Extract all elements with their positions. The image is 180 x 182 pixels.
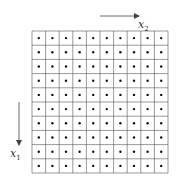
grid-point-dot-icon: [160, 136, 162, 138]
grid-point-dot-icon: [65, 65, 67, 67]
grid-point-dot-icon: [78, 51, 80, 53]
grid-point-dot-icon: [65, 94, 67, 96]
grid-point-dot-icon: [133, 94, 135, 96]
grid-point-dot-icon: [92, 151, 94, 153]
grid-point-dot-icon: [146, 80, 148, 82]
grid-point-dot-icon: [119, 136, 121, 138]
grid-point-dot-icon: [106, 136, 108, 138]
grid-point-dot-icon: [92, 136, 94, 138]
grid-point-dot-icon: [160, 94, 162, 96]
grid-point-dot-icon: [146, 122, 148, 124]
grid-point-dot-icon: [133, 136, 135, 138]
grid-point-dot-icon: [51, 65, 53, 67]
grid-point-dot-icon: [133, 108, 135, 110]
grid-point-dot-icon: [160, 165, 162, 167]
grid-point-dot-icon: [51, 136, 53, 138]
grid-diagram: x2 x1: [0, 0, 180, 182]
grid-point-dot-icon: [78, 37, 80, 39]
grid-point-dot-icon: [106, 94, 108, 96]
grid-point-dot-icon: [146, 136, 148, 138]
grid-point-dot-icon: [65, 51, 67, 53]
grid-point-dot-icon: [78, 94, 80, 96]
x2-axis-label: x2: [138, 18, 149, 33]
grid-point-dot-icon: [119, 151, 121, 153]
grid-point-dot-icon: [106, 108, 108, 110]
grid-point-dot-icon: [38, 136, 40, 138]
grid-point-dot-icon: [92, 37, 94, 39]
grid-point-dot-icon: [78, 165, 80, 167]
grid-point-dot-icon: [106, 151, 108, 153]
grid-point-dot-icon: [51, 94, 53, 96]
grid-point-dot-icon: [160, 108, 162, 110]
grid-point-dot-icon: [78, 122, 80, 124]
grid-point-dot-icon: [38, 108, 40, 110]
grid-point-dot-icon: [146, 108, 148, 110]
grid-point-dot-icon: [51, 151, 53, 153]
grid-point-dot-icon: [38, 94, 40, 96]
grid-point-dot-icon: [65, 37, 67, 39]
grid-point-dot-icon: [65, 165, 67, 167]
grid-point-dot-icon: [106, 80, 108, 82]
grid-point-dot-icon: [38, 65, 40, 67]
grid-point-dot-icon: [92, 65, 94, 67]
grid-point-dot-icon: [160, 65, 162, 67]
grid-point-dot-icon: [133, 65, 135, 67]
grid-point-dot-icon: [160, 151, 162, 153]
grid-point-dot-icon: [133, 37, 135, 39]
grid-point-dot-icon: [38, 122, 40, 124]
grid-point-dot-icon: [51, 37, 53, 39]
grid-point-dot-icon: [133, 122, 135, 124]
grid-point-dot-icon: [119, 37, 121, 39]
x1-axis-label: x1: [10, 147, 21, 162]
grid-point-dot-icon: [133, 51, 135, 53]
grid-point-dot-icon: [133, 151, 135, 153]
grid-point-dot-icon: [146, 65, 148, 67]
grid-point-dot-icon: [65, 80, 67, 82]
grid-point-dot-icon: [146, 165, 148, 167]
grid-point-dot-icon: [38, 80, 40, 82]
grid-point-dot-icon: [160, 122, 162, 124]
grid-point-dot-icon: [92, 80, 94, 82]
grid-point-dot-icon: [51, 165, 53, 167]
grid-point-dot-icon: [119, 108, 121, 110]
grid-point-dot-icon: [119, 94, 121, 96]
grid-point-dot-icon: [65, 136, 67, 138]
grid-point-dot-icon: [51, 80, 53, 82]
grid-point-dot-icon: [119, 65, 121, 67]
grid-point-dot-icon: [78, 136, 80, 138]
grid-point-dot-icon: [51, 108, 53, 110]
grid-point-dot-icon: [92, 122, 94, 124]
grid-point-dot-icon: [119, 51, 121, 53]
grid-point-dot-icon: [119, 122, 121, 124]
grid-point-dot-icon: [78, 151, 80, 153]
grid-point-dot-icon: [92, 51, 94, 53]
grid-point-dot-icon: [160, 37, 162, 39]
grid-point-dot-icon: [51, 122, 53, 124]
grid-point-dot-icon: [119, 165, 121, 167]
grid-point-dot-icon: [38, 37, 40, 39]
grid-point-dot-icon: [51, 51, 53, 53]
grid-point-dot-icon: [78, 108, 80, 110]
grid-point-dot-icon: [106, 65, 108, 67]
grid-point-dot-icon: [38, 165, 40, 167]
grid-point-dot-icon: [106, 165, 108, 167]
grid-point-dot-icon: [92, 108, 94, 110]
grid-point-dot-icon: [106, 51, 108, 53]
grid-point-dot-icon: [65, 108, 67, 110]
grid-point-dot-icon: [38, 151, 40, 153]
grid-point-dot-icon: [146, 151, 148, 153]
grid-point-dot-icon: [160, 51, 162, 53]
grid-point-dot-icon: [160, 80, 162, 82]
grid-point-dot-icon: [133, 165, 135, 167]
grid-point-dot-icon: [146, 37, 148, 39]
grid-point-dot-icon: [65, 122, 67, 124]
grid-point-dot-icon: [65, 151, 67, 153]
grid-point-dot-icon: [92, 94, 94, 96]
grid-point-dot-icon: [146, 51, 148, 53]
grid-point-dot-icon: [78, 80, 80, 82]
grid-point-dot-icon: [146, 94, 148, 96]
grid-point-dot-icon: [119, 80, 121, 82]
grid-point-dot-icon: [78, 65, 80, 67]
grid-point-dot-icon: [106, 37, 108, 39]
grid-point-dot-icon: [106, 122, 108, 124]
